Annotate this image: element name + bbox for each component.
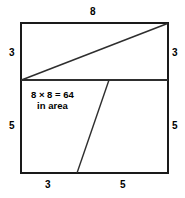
dimension-label-right-lower: 5	[172, 121, 178, 131]
figure-canvas	[0, 0, 185, 198]
dimension-label-left-lower: 5	[9, 121, 15, 131]
dimension-label-bottom-right: 5	[120, 180, 126, 190]
dimension-label-left-upper: 3	[9, 48, 15, 58]
area-annotation-line-2: in area	[31, 100, 74, 111]
area-annotation-line-1: 8 × 8 = 64	[31, 89, 74, 100]
geometry-figure: 8 3 3 5 5 3 5 8 × 8 = 64 in area	[0, 0, 185, 198]
dimension-label-bottom-left: 3	[45, 180, 51, 190]
dimension-label-top: 8	[90, 7, 96, 17]
area-annotation: 8 × 8 = 64 in area	[31, 89, 74, 111]
dimension-label-right-upper: 3	[172, 48, 178, 58]
